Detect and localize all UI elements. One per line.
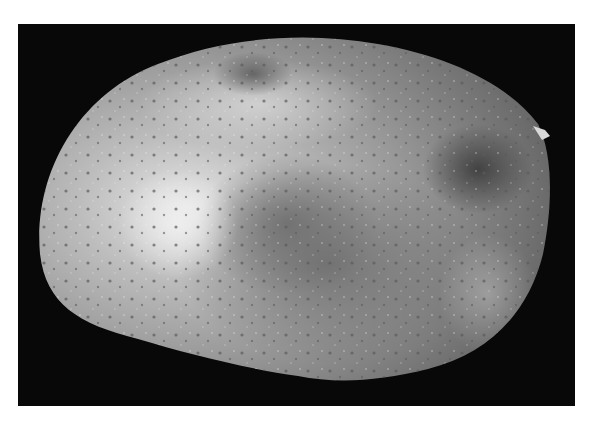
mango-photo — [18, 24, 575, 406]
photo-frame — [18, 24, 575, 406]
